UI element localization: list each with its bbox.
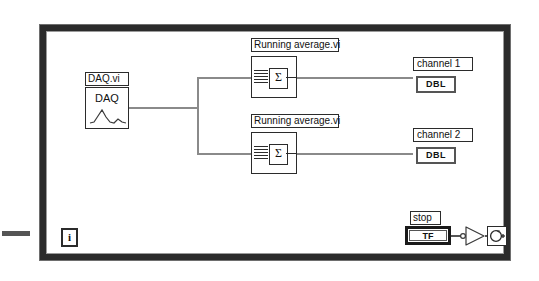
- wire-branch-vertical[interactable]: [197, 77, 199, 155]
- daq-icon-text: DAQ: [86, 92, 128, 104]
- loop-condition-terminal[interactable]: [487, 226, 507, 246]
- channel-2-terminal[interactable]: DBL: [416, 147, 456, 164]
- output-stub-icon: [286, 153, 297, 154]
- daq-vi-label: DAQ.vi: [85, 72, 129, 86]
- stop-label: stop: [410, 211, 441, 225]
- daq-vi-node[interactable]: DAQ: [85, 87, 129, 129]
- block-diagram-canvas: DAQ.vi DAQ Running average.vi Σ Running …: [0, 0, 539, 281]
- stop-terminal[interactable]: TF: [405, 226, 451, 245]
- wire-to-channel-1[interactable]: [297, 77, 413, 79]
- sigma-icon: Σ: [269, 68, 288, 89]
- running-average-2-label: Running average.vi: [251, 114, 339, 128]
- channel-2-label: channel 2: [413, 128, 473, 142]
- waveform-icon: [89, 108, 127, 126]
- external-wire-stub: [2, 231, 30, 236]
- running-average-1-node[interactable]: Σ: [251, 56, 297, 98]
- sigma-icon: Σ: [269, 144, 288, 165]
- not-gate-icon[interactable]: [460, 224, 486, 248]
- wire-to-running-average-1[interactable]: [197, 77, 251, 79]
- wire-daq-output[interactable]: [129, 107, 199, 109]
- wire-to-running-average-2[interactable]: [197, 153, 251, 155]
- channel-1-terminal[interactable]: DBL: [416, 76, 456, 93]
- running-average-1-label: Running average.vi: [251, 38, 339, 52]
- iteration-terminal[interactable]: i: [61, 228, 78, 247]
- input-bars-icon: [254, 70, 268, 84]
- loop-condition-icon: [488, 227, 506, 245]
- iteration-terminal-label: i: [63, 230, 76, 245]
- stop-terminal-datatype: TF: [409, 230, 447, 241]
- running-average-2-node[interactable]: Σ: [251, 132, 297, 174]
- input-bars-icon: [254, 146, 268, 160]
- channel-1-label: channel 1: [413, 57, 473, 71]
- output-stub-icon: [286, 77, 297, 78]
- wire-to-channel-2[interactable]: [297, 153, 413, 155]
